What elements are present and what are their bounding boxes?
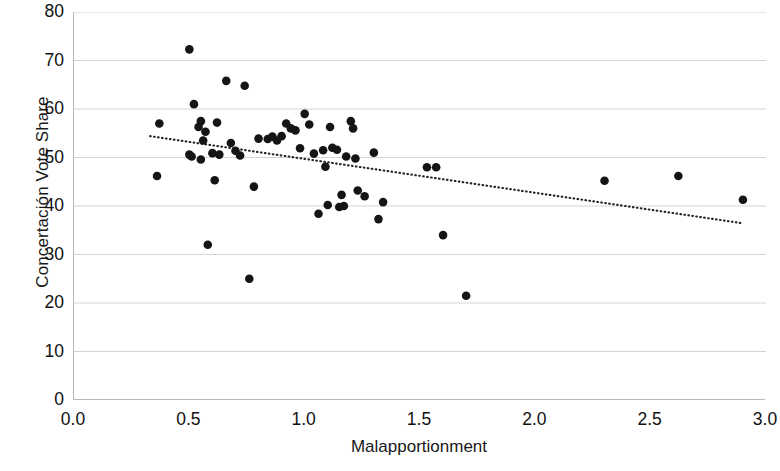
- x-axis-title: Malapportionment: [73, 437, 765, 457]
- x-tick-label: 2.0: [499, 411, 569, 429]
- scatter-chart: Concertación Vote Share 0102030405060708…: [0, 0, 780, 471]
- x-tick-label: 0.0: [38, 411, 108, 429]
- x-tick-label: 0.5: [153, 411, 223, 429]
- x-tick-label: 2.5: [615, 411, 685, 429]
- x-tick-label: 1.0: [269, 411, 339, 429]
- x-tick-label: 3.0: [730, 411, 780, 429]
- x-tick-label: 1.5: [384, 411, 454, 429]
- x-axis-tick-labels: 0.00.51.01.52.02.53.0: [0, 0, 780, 471]
